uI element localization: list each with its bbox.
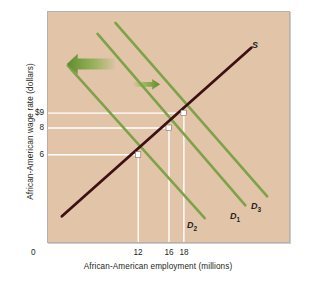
x-tick-18: 18 — [170, 248, 198, 257]
supply-curve-label: S — [252, 40, 258, 50]
equilibrium-point-d3 — [181, 110, 187, 116]
plot-area: S D2 D1 D3 — [47, 11, 290, 243]
y-axis-title: African-American wage rate (dollars) — [26, 16, 35, 248]
demand-curve-d3-label: D3 — [251, 201, 261, 213]
vertical-gridlines — [138, 113, 184, 242]
x-tick-12: 12 — [124, 248, 152, 257]
origin-label: 0 — [31, 248, 36, 257]
economics-supply-demand-figure: S D2 D1 D3 $9 8 6 0 12 16 18 African-Ame… — [0, 0, 316, 281]
demand-curve-d2-label: D2 — [187, 220, 197, 232]
equilibrium-point-d1 — [166, 125, 172, 131]
x-axis-title: African-American employment (millions) — [0, 262, 316, 271]
equilibrium-point-d2 — [135, 152, 141, 158]
demand-curve-d1-label: D1 — [230, 211, 240, 223]
supply-curve-s — [62, 48, 251, 217]
